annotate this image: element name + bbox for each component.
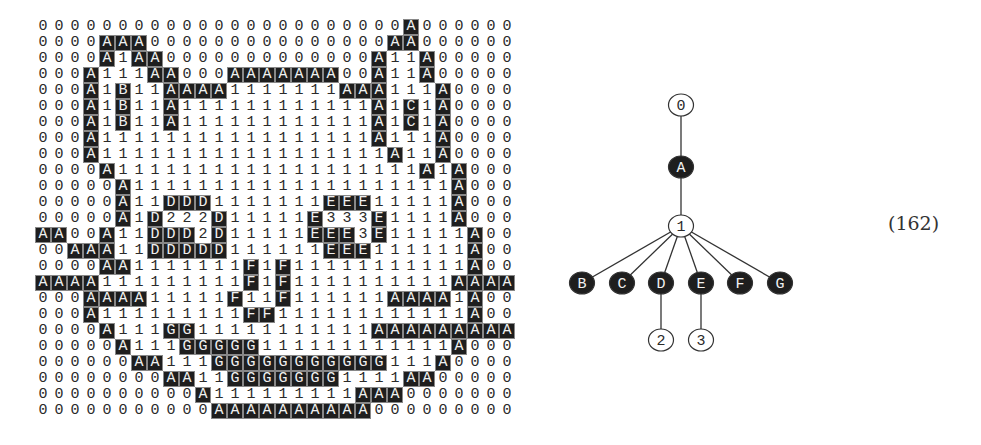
- tree-node-3: 3: [689, 329, 714, 351]
- svg-text:A: A: [676, 160, 685, 177]
- tree-node-1: 1: [669, 215, 694, 237]
- svg-text:B: B: [577, 276, 586, 293]
- svg-text:E: E: [696, 276, 705, 293]
- tree-node-F: F: [728, 272, 753, 294]
- svg-text:C: C: [617, 276, 626, 293]
- tree-node-G: G: [768, 272, 793, 294]
- svg-text:2: 2: [656, 333, 665, 350]
- tree-node-E: E: [689, 272, 714, 294]
- svg-text:0: 0: [676, 98, 685, 115]
- tree-node-D: D: [649, 272, 674, 294]
- svg-text:3: 3: [696, 333, 705, 350]
- tree-node-0: 0: [669, 94, 694, 116]
- svg-text:G: G: [775, 276, 784, 293]
- tree-node-A: A: [669, 156, 694, 178]
- tree-node-2: 2: [649, 329, 674, 351]
- svg-text:D: D: [656, 276, 665, 293]
- svg-text:1: 1: [676, 219, 685, 236]
- adjacency-tree-diagram: 0A1BCDEFG23: [0, 0, 981, 445]
- tree-node-B: B: [570, 272, 595, 294]
- svg-text:F: F: [735, 276, 744, 293]
- equation-number: (162): [888, 212, 939, 234]
- tree-node-C: C: [610, 272, 635, 294]
